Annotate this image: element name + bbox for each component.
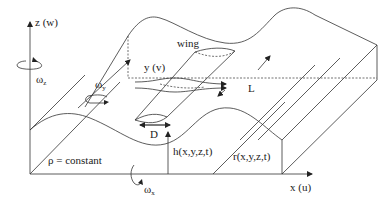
rotation-x-icon <box>131 165 143 185</box>
omega-x-label: ωx <box>144 183 155 197</box>
z-axis-label: z (w) <box>35 16 58 29</box>
channel-diagram: z (w) ωz x (u) y (v) <box>0 0 389 204</box>
length-label: L <box>248 82 255 94</box>
surface-label: r(x,y,z,t) <box>233 150 271 163</box>
omega-y-label: ωy <box>95 78 106 92</box>
density-label: ρ = constant <box>48 154 102 166</box>
omega-z-label: ωz <box>36 73 46 87</box>
width-label: D <box>150 128 158 140</box>
wing-label: wing <box>177 37 200 49</box>
rotation-z-icon <box>17 57 42 69</box>
surface-arrows <box>218 56 270 96</box>
flow-streamlines <box>135 78 226 92</box>
x-axis-label: x (u) <box>290 181 311 194</box>
wing <box>135 48 235 123</box>
y-axis-label: y (v) <box>144 61 165 74</box>
depth-label: h(x,y,z,t) <box>173 145 213 158</box>
